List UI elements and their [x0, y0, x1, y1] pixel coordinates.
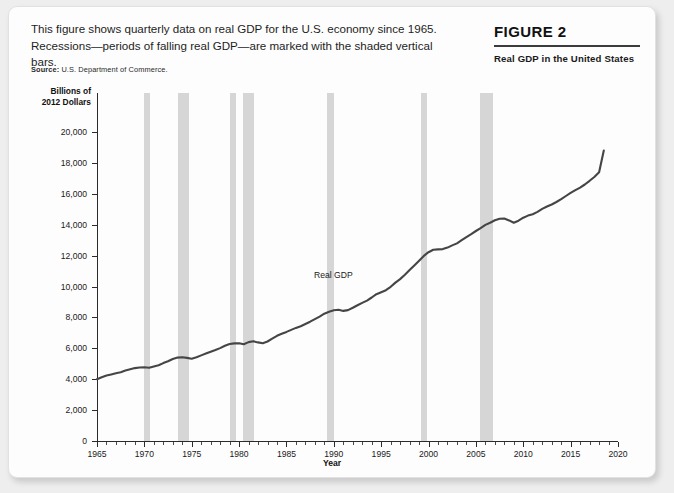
gdp-line-path — [97, 151, 604, 380]
series-annotation-real-gdp: Real GDP — [314, 270, 353, 280]
figure-card: This figure shows quarterly data on real… — [8, 6, 656, 478]
page-background: This figure shows quarterly data on real… — [0, 0, 674, 493]
gdp-chart: Billions of 2012 Dollars Year 02,0004,00… — [9, 7, 655, 477]
gdp-line-series — [9, 7, 655, 477]
